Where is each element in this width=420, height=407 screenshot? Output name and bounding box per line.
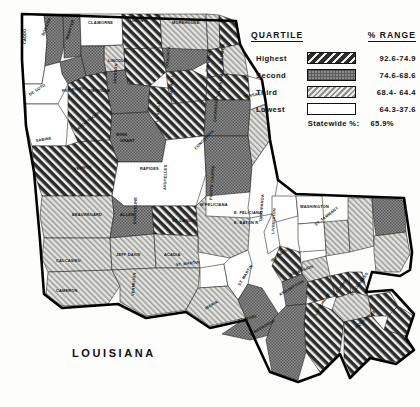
legend-label-lowest: Lowest xyxy=(250,105,304,114)
legend-label-third: Third xyxy=(250,88,304,97)
map-legend: QUARTILE % RANGE Highest 92.6-74.9 Secon… xyxy=(250,30,418,128)
svg-text:GRANT: GRANT xyxy=(120,138,135,143)
parish-lafayette xyxy=(200,264,228,288)
statewide-label: Statewide %: xyxy=(308,119,360,128)
parish-madison xyxy=(222,44,248,76)
parish-tangipahoa xyxy=(348,198,374,252)
parish-calcasieu xyxy=(42,238,112,272)
svg-text:JEFF DAVIS: JEFF DAVIS xyxy=(116,252,141,257)
svg-text:CAMERON: CAMERON xyxy=(56,288,78,293)
legend-row-highest: Highest 92.6-74.9 xyxy=(250,51,418,66)
map-title: LOUISIANA xyxy=(72,347,156,359)
svg-text:AVOYELLES: AVOYELLES xyxy=(162,164,168,190)
legend-swatch-lowest xyxy=(307,103,356,115)
map-figure: CADDO BOSSIER WEBSTER CLAIBORNE UNION MO… xyxy=(0,0,420,407)
svg-text:CLAIBORNE: CLAIBORNE xyxy=(88,20,113,25)
svg-text:E. BATON R.: E. BATON R. xyxy=(234,220,260,225)
statewide-value: 65.9% xyxy=(370,119,418,128)
svg-text:CADDO: CADDO xyxy=(22,29,27,44)
parish-beauregard xyxy=(40,196,114,238)
svg-text:UNION: UNION xyxy=(130,18,144,23)
legend-swatch-third xyxy=(307,86,356,98)
legend-header-row: QUARTILE % RANGE xyxy=(250,30,418,42)
parish-st-tammany xyxy=(374,232,410,272)
legend-range-second: 74.6-68.6 xyxy=(356,71,418,80)
parish-washington xyxy=(372,198,406,236)
parish-livingston xyxy=(324,220,350,256)
legend-swatch-second xyxy=(307,69,356,81)
parish-claiborne xyxy=(80,14,123,46)
svg-text:EVANGELINE: EVANGELINE xyxy=(132,196,138,224)
svg-text:W.FELICIANA: W.FELICIANA xyxy=(200,202,228,207)
legend-label-second: Second xyxy=(250,71,304,80)
legend-range-highest: 92.6-74.9 xyxy=(356,54,418,63)
parish-jackson xyxy=(124,48,166,86)
svg-text:RAPIDES: RAPIDES xyxy=(140,166,159,171)
svg-text:LINCOLN: LINCOLN xyxy=(108,58,127,63)
parish-e-baton-rouge xyxy=(298,222,326,252)
svg-text:TANGIPAHOA: TANGIPAHOA xyxy=(258,194,265,222)
svg-text:WASHINGTON: WASHINGTON xyxy=(300,204,329,209)
legend-swatch-highest xyxy=(307,52,356,64)
legend-header-range: % RANGE xyxy=(368,30,416,42)
legend-row-second: Second 74.6-68.6 xyxy=(250,68,418,83)
legend-row-lowest: Lowest 64.3-37.6 xyxy=(250,102,418,117)
legend-header-quartile: QUARTILE xyxy=(251,30,303,42)
svg-text:ACADIA: ACADIA xyxy=(164,252,180,257)
legend-range-third: 68.4- 64.4 xyxy=(356,88,418,97)
legend-row-third: Third 68.4- 64.4 xyxy=(250,85,418,100)
legend-range-lowest: 64.3-37.6 xyxy=(356,105,418,114)
svg-text:WINN: WINN xyxy=(116,132,127,137)
svg-text:BIENVILLE: BIENVILLE xyxy=(88,88,110,93)
statewide-row: Statewide %: 65.9% xyxy=(250,119,418,128)
parish-caddo xyxy=(22,14,47,84)
svg-text:BEAUREGARD: BEAUREGARD xyxy=(72,212,102,217)
svg-text:CALCASIEU: CALCASIEU xyxy=(56,258,81,263)
svg-text:ST. LANDRY: ST. LANDRY xyxy=(172,218,197,223)
legend-label-highest: Highest xyxy=(250,54,304,63)
svg-text:MOREHOUSE: MOREHOUSE xyxy=(172,20,200,25)
